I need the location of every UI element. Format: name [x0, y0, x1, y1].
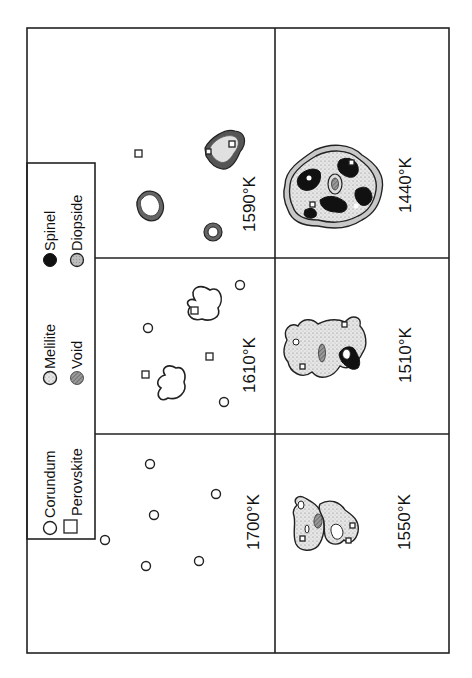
perovskite-icon [350, 523, 355, 528]
diopside-icon [71, 254, 84, 267]
corundum-icon [150, 511, 159, 520]
spinel-icon [44, 254, 57, 267]
corundum-icon [220, 398, 229, 407]
spinel-grain [304, 208, 316, 218]
temperature-label: 1610°K [240, 336, 259, 393]
pore [354, 204, 359, 209]
legend-label-melilite: Melilite [42, 324, 58, 369]
void-region [332, 178, 339, 190]
frame [27, 28, 449, 653]
corundum-icon [144, 324, 153, 333]
legend-label-corundum: Corundum [42, 450, 58, 518]
void-hole [343, 349, 351, 359]
perovskite-icon [300, 536, 305, 541]
melilite-outline [187, 287, 221, 320]
perovskite-icon [342, 322, 347, 327]
legend-item-perovskite: Perovskite [64, 448, 85, 533]
corundum-icon [142, 562, 151, 571]
legend-item-diopside: Diopside [69, 195, 85, 267]
corundum-icon [212, 490, 221, 499]
legend-item-corundum: Corundum [42, 450, 58, 534]
perovskite-icon [300, 364, 305, 369]
void-icon [71, 372, 84, 385]
void-hole [331, 524, 343, 539]
temperature-label: 1510°K [396, 326, 415, 383]
panel-1440: 1440°K [284, 145, 415, 228]
perovskite-icon [229, 141, 235, 147]
perovskite-icon [142, 371, 149, 378]
perovskite-icon [206, 353, 213, 360]
perovskite-icon [64, 520, 77, 533]
corundum-icon [101, 536, 110, 545]
perovskite-icon [191, 307, 198, 314]
pore [305, 525, 309, 533]
perovskite-icon [310, 202, 315, 207]
corundum-icon [44, 522, 57, 535]
panel-1700: 1700°K [101, 460, 264, 571]
void-region [319, 344, 326, 362]
panel-1590: 1590°K [135, 130, 259, 241]
melilite-icon [44, 372, 57, 385]
temperature-label: 1700°K [244, 493, 263, 550]
legend-item-melilite: Melilite [42, 324, 58, 385]
panel-1610: 1610°K [142, 281, 259, 407]
legend: Corundum Perovskite Melilite Void Spinel… [27, 163, 95, 539]
corundum-icon [236, 281, 245, 290]
legend-label-diopside: Diopside [69, 195, 85, 251]
pore [298, 501, 304, 509]
perovskite-icon [206, 149, 211, 154]
temperature-label: 1440°K [396, 156, 415, 213]
perovskite-icon [346, 538, 351, 543]
legend-label-spinel: Spinel [42, 211, 58, 251]
panel-1510: 1510°K [284, 317, 415, 383]
legend-label-perovskite: Perovskite [69, 448, 85, 516]
melilite-grain [208, 227, 218, 237]
corundum-icon [146, 460, 155, 469]
pore [307, 176, 312, 181]
legend-item-spinel: Spinel [42, 211, 58, 267]
temperature-label: 1590°K [240, 175, 259, 232]
pore [293, 339, 299, 345]
legend-item-void: Void [69, 341, 85, 385]
perovskite-icon [135, 150, 142, 157]
legend-label-void: Void [69, 341, 85, 369]
temperature-label: 1550°K [395, 493, 414, 550]
panel-1550: 1550°K [293, 493, 414, 550]
perovskite-icon [349, 160, 354, 165]
phase-diagram: Corundum Perovskite Melilite Void Spinel… [0, 0, 472, 678]
melilite-outline [158, 366, 185, 400]
void-region [314, 514, 322, 528]
corundum-icon [195, 557, 204, 566]
